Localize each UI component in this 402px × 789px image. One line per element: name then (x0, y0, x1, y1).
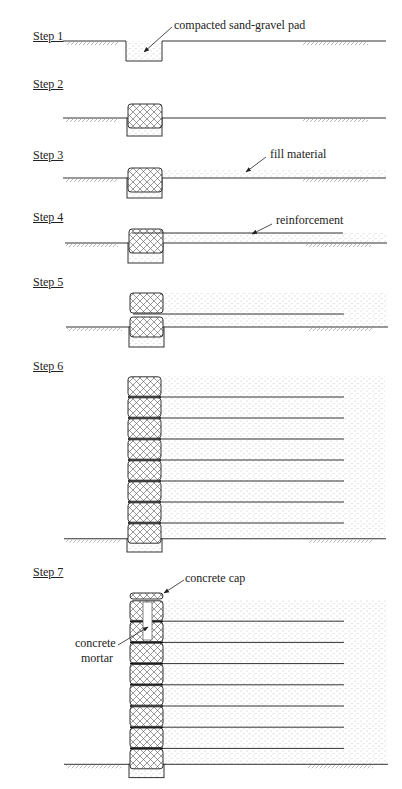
sand-gravel-pad (127, 41, 162, 61)
facing-block (128, 398, 161, 417)
callout-arrow-cap (164, 580, 184, 593)
step-2-label: Step 2 (33, 77, 63, 92)
facing-block (128, 482, 161, 501)
facing-block (130, 293, 163, 313)
fill-material (163, 600, 387, 764)
facing-block (130, 643, 163, 663)
facing-block (128, 461, 161, 480)
facing-block (128, 503, 161, 522)
callout-fill-material: fill material (270, 147, 326, 161)
facing-block (128, 104, 162, 128)
step-2-drawing (63, 104, 386, 136)
step-6-drawing (64, 376, 386, 552)
facing-block (128, 524, 161, 543)
soil-hatch-left (66, 540, 121, 543)
facing-block (128, 168, 162, 192)
fill-material (163, 293, 387, 327)
step-4-label: Step 4 (33, 210, 63, 225)
fill-material (161, 376, 385, 539)
facing-block (130, 707, 163, 727)
callout-reinforcement: reinforcement (276, 213, 343, 227)
facing-block (128, 377, 161, 396)
soil-hatch-left (66, 42, 118, 45)
step-1-drawing (63, 27, 386, 61)
facing-block (130, 686, 163, 706)
concrete-mortar-core (143, 602, 152, 640)
step-5-label: Step 5 (33, 275, 63, 290)
fill-material (162, 233, 386, 243)
facing-block (130, 664, 163, 684)
soil-hatch-right (303, 42, 368, 45)
concrete-cap (130, 593, 163, 599)
callout-concrete-mortar-line2: mortar (81, 651, 113, 665)
step-7-drawing (64, 580, 388, 778)
soil-hatch-right (308, 540, 373, 543)
step-3-label: Step 3 (33, 148, 63, 163)
soil-hatch-right (308, 765, 373, 768)
fill-material (162, 169, 386, 178)
callout-concrete-cap: concrete cap (185, 571, 245, 585)
facing-block (128, 419, 161, 438)
facing-block (130, 728, 163, 748)
step-6-label: Step 6 (33, 359, 63, 374)
callout-concrete-mortar-line1: concrete (75, 636, 116, 650)
facing-block (130, 749, 163, 769)
facing-block (128, 440, 161, 459)
step-1-label: Step 1 (33, 29, 63, 44)
construction-sequence-diagram (0, 0, 402, 789)
step-5-drawing (66, 293, 388, 347)
step-4-drawing (65, 224, 387, 263)
facing-block (130, 317, 163, 337)
callout-sand-gravel-pad: compacted sand-gravel pad (174, 18, 305, 32)
step-7-label: Step 7 (33, 565, 63, 580)
step-3-drawing (63, 157, 386, 198)
soil-hatch-left (66, 765, 121, 768)
